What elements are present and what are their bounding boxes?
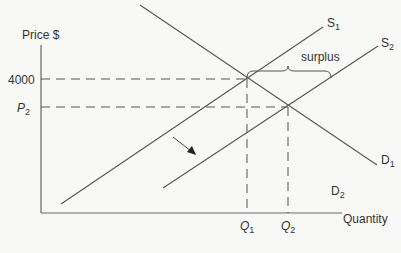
q2-label: Q2 <box>281 219 295 235</box>
s2-label: S2 <box>381 36 394 52</box>
supply-demand-diagram: Price $ Quantity 4000 P2 Q1 Q2 S1 S2 D1 … <box>0 0 401 253</box>
demand-curve-d1 <box>140 5 377 165</box>
d2-label: D2 <box>331 184 345 200</box>
shift-arrow-shaft <box>173 137 191 151</box>
y-axis-label: Price $ <box>22 28 60 42</box>
q1-label: Q1 <box>240 219 254 235</box>
supply-curve-s2 <box>163 46 378 188</box>
s1-label: S1 <box>327 16 340 32</box>
x-axis-label: Quantity <box>343 212 388 226</box>
price-p2-label: P2 <box>17 101 30 117</box>
supply-curve-s1 <box>61 27 323 204</box>
surplus-label: surplus <box>301 50 340 64</box>
shift-arrow-head-icon <box>187 146 196 155</box>
price-4000-label: 4000 <box>8 73 35 87</box>
d1-label: D1 <box>381 153 395 169</box>
surplus-brace <box>247 66 331 78</box>
